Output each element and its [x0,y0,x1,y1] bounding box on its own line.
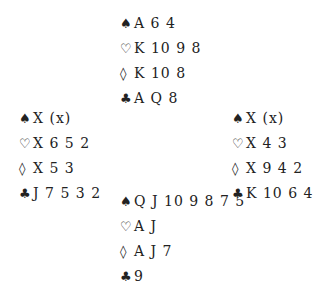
west-hearts: ♡X 6 5 2 [19,131,101,156]
north-hand: ♠A 6 4 ♡K 10 9 8 ◊K 10 8 ♣A Q 8 [120,11,201,111]
heart-icon: ♡ [120,36,134,61]
south-clubs: ♣9 [120,264,245,288]
west-hand: ♠X (x) ♡X 6 5 2 ◊X 5 3 ♣J 7 5 3 2 [19,106,101,206]
north-clubs: ♣A Q 8 [120,86,201,111]
north-hearts: ♡K 10 9 8 [120,36,201,61]
club-icon: ♣ [120,264,134,288]
west-clubs: ♣J 7 5 3 2 [19,181,101,206]
east-hearts: ♡X 4 3 [232,131,313,156]
south-diamonds: ◊A J 7 [120,239,245,264]
spade-icon: ♠ [232,106,246,131]
west-spades: ♠X (x) [19,106,101,131]
heart-icon: ♡ [120,214,134,239]
diamond-icon: ◊ [120,239,134,264]
club-icon: ♣ [19,181,33,206]
south-hand: ♠Q J 10 9 8 7 5 ♡A J ◊A J 7 ♣9 [120,189,245,288]
spade-icon: ♠ [120,189,134,214]
west-diamonds: ◊X 5 3 [19,156,101,181]
north-diamonds: ◊K 10 8 [120,61,201,86]
south-spades: ♠Q J 10 9 8 7 5 [120,189,245,214]
north-spades: ♠A 6 4 [120,11,201,36]
diamond-icon: ◊ [19,156,33,181]
east-diamonds: ◊X 9 4 2 [232,156,313,181]
heart-icon: ♡ [19,131,33,156]
east-spades: ♠X (x) [232,106,313,131]
heart-icon: ♡ [232,131,246,156]
diamond-icon: ◊ [120,61,134,86]
spade-icon: ♠ [120,11,134,36]
diamond-icon: ◊ [232,156,246,181]
south-hearts: ♡A J [120,214,245,239]
spade-icon: ♠ [19,106,33,131]
club-icon: ♣ [120,86,134,111]
